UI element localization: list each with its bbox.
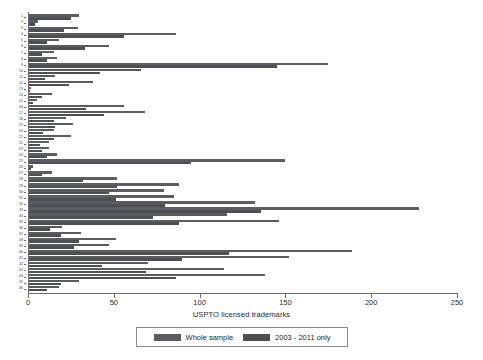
- y-axis-line: [28, 12, 29, 294]
- y-axis-tick-mark: [24, 168, 26, 169]
- y-axis-tick-mark: [24, 89, 26, 90]
- legend-swatch-whole-sample-icon: [154, 334, 181, 341]
- y-axis-tick-mark: [24, 252, 26, 253]
- legend-item-whole-sample: Whole sample: [154, 333, 234, 342]
- y-axis-tick-mark: [24, 283, 26, 284]
- y-axis-tick-mark: [24, 174, 26, 175]
- y-axis-tick-mark: [24, 198, 26, 199]
- y-axis-tick-mark: [24, 192, 26, 193]
- y-axis-tick-mark: [24, 35, 26, 36]
- y-axis-tick-mark: [24, 162, 26, 163]
- y-axis-tick-mark: [24, 228, 26, 229]
- y-axis-tick-mark: [24, 289, 26, 290]
- y-axis-tick-mark: [24, 65, 26, 66]
- y-axis-tick-mark: [24, 83, 26, 84]
- x-axis-tick-label: 150: [279, 299, 292, 307]
- y-axis-tick-mark: [24, 53, 26, 54]
- x-axis-tick-label: 100: [193, 299, 206, 307]
- y-axis-tick-mark: [24, 156, 26, 157]
- plot-area: [28, 14, 457, 292]
- y-axis-tick-mark: [24, 107, 26, 108]
- y-axis-tick-mark: [24, 113, 26, 114]
- y-axis-tick-mark: [24, 180, 26, 181]
- chart-legend: Whole sample 2003 - 2011 only: [136, 327, 348, 347]
- y-axis-tick-mark: [24, 150, 26, 151]
- y-axis-tick-mark: [24, 59, 26, 60]
- x-axis-title: USPTO licensed trademarks: [0, 310, 483, 319]
- y-axis-tick-mark: [24, 29, 26, 30]
- y-axis-tick-mark: [24, 277, 26, 278]
- y-axis-tick-mark: [24, 137, 26, 138]
- y-axis-tick-mark: [24, 210, 26, 211]
- y-axis-tick-mark: [24, 264, 26, 265]
- legend-label-whole-sample: Whole sample: [186, 333, 234, 342]
- y-axis-tick-label: 46: [0, 286, 26, 292]
- y-axis-tick-mark: [24, 144, 26, 145]
- x-axis-tick-label: 200: [365, 299, 378, 307]
- bar-row: [28, 285, 457, 291]
- y-axis-tick-mark: [24, 270, 26, 271]
- y-axis-tick-mark: [24, 119, 26, 120]
- bar-chart-figure: 1234567891011121314151617181920212223242…: [0, 0, 483, 360]
- y-axis-tick-labels: 1234567891011121314151617181920212223242…: [0, 14, 26, 292]
- x-axis-tick-label: 50: [110, 299, 118, 307]
- y-axis-tick-mark: [24, 47, 26, 48]
- y-axis-tick-mark: [24, 71, 26, 72]
- x-axis-tick-label: 250: [451, 299, 464, 307]
- y-axis-tick-mark: [24, 186, 26, 187]
- x-axis-tick-label: 0: [26, 299, 30, 307]
- x-axis-line: [28, 293, 458, 294]
- y-axis-tick-mark: [24, 131, 26, 132]
- y-axis-tick-mark: [24, 17, 26, 18]
- legend-label-recent: 2003 - 2011 only: [275, 333, 330, 342]
- y-axis-tick-mark: [24, 234, 26, 235]
- y-axis-tick-mark: [24, 204, 26, 205]
- bars-container: [28, 14, 457, 292]
- y-axis-tick-mark: [24, 222, 26, 223]
- y-axis-tick-mark: [24, 77, 26, 78]
- legend-swatch-recent-icon: [243, 334, 270, 341]
- bar-recent: [28, 289, 47, 291]
- y-axis-tick-mark: [24, 216, 26, 217]
- y-axis-tick-mark: [24, 95, 26, 96]
- y-axis-tick-mark: [24, 41, 26, 42]
- y-axis-tick-mark: [24, 246, 26, 247]
- legend-item-recent: 2003 - 2011 only: [243, 333, 330, 342]
- y-axis-tick-mark: [24, 23, 26, 24]
- y-axis-tick-mark: [24, 125, 26, 126]
- y-axis-tick-mark: [24, 258, 26, 259]
- y-axis-tick-mark: [24, 101, 26, 102]
- y-axis-tick-mark: [24, 240, 26, 241]
